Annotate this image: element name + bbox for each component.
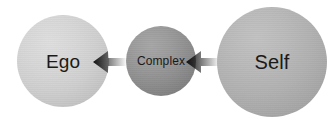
arrow-left-icon-complex-to-ego — [93, 49, 127, 75]
node-complex-label: Complex — [137, 55, 185, 67]
arrow-left-icon-self-to-complex — [186, 49, 220, 75]
diagram-canvas: Ego Complex — [0, 0, 329, 123]
node-self-label: Self — [255, 52, 290, 72]
node-ego-label: Ego — [46, 52, 80, 71]
node-self: Self — [217, 7, 327, 117]
